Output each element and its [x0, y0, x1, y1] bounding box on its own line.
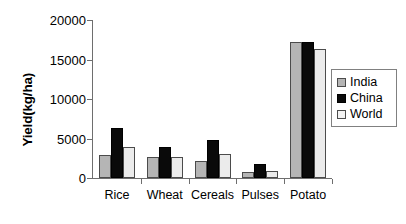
x-axis-tick-mark [141, 179, 142, 184]
bar-china-wheat [159, 147, 171, 178]
legend-item-india[interactable]: India [337, 74, 392, 90]
plot-area [93, 20, 332, 178]
y-axis-tick-labels: 20000150001000050000 [28, 0, 86, 224]
x-axis-tick-mark [332, 179, 333, 184]
x-axis-label-cereals: Cereals [189, 189, 237, 202]
y-axis-tick-mark [87, 139, 93, 140]
bar-world-wheat [171, 157, 183, 178]
y-axis-tick-label: 0 [28, 172, 86, 185]
bar-china-cereals [207, 140, 219, 178]
bar-group-potato [290, 20, 326, 178]
y-axis-tick-mark [87, 178, 93, 179]
x-axis-tick-mark [236, 179, 237, 184]
bar-group-pulses [242, 20, 278, 178]
bar-india-rice [99, 155, 111, 178]
x-axis-tick-mark [189, 179, 190, 184]
x-axis-label-wheat: Wheat [141, 189, 189, 202]
bar-india-wheat [147, 157, 159, 178]
bar-india-pulses [242, 172, 254, 178]
legend-label: India [350, 76, 377, 89]
bar-chart: Yield(kg/ha) 20000150001000050000 IndiaC… [0, 0, 406, 224]
legend-swatch-world-icon [337, 110, 346, 119]
bar-world-rice [123, 147, 135, 178]
bar-india-potato [290, 42, 302, 178]
bar-china-potato [302, 42, 314, 178]
y-axis-tick-label: 5000 [28, 133, 86, 146]
legend-label: China [350, 92, 383, 105]
x-axis-label-pulses: Pulses [236, 189, 284, 202]
y-axis-tick-label: 15000 [28, 54, 86, 67]
y-axis-tick-mark [87, 60, 93, 61]
x-axis-label-potato: Potato [284, 189, 332, 202]
legend-item-world[interactable]: World [337, 106, 392, 122]
y-axis-tick-label: 20000 [28, 14, 86, 27]
legend-swatch-india-icon [337, 78, 346, 87]
y-axis-tick-mark [87, 99, 93, 100]
legend-label: World [350, 108, 382, 121]
bar-group-cereals [195, 20, 231, 178]
bar-world-pulses [266, 171, 278, 178]
bar-world-cereals [219, 154, 231, 178]
bar-group-wheat [147, 20, 183, 178]
bar-world-potato [314, 49, 326, 178]
x-axis-label-rice: Rice [93, 189, 141, 202]
bar-group-rice [99, 20, 135, 178]
y-axis-tick-mark [87, 20, 93, 21]
bar-china-rice [111, 128, 123, 178]
bar-china-pulses [254, 164, 266, 178]
x-axis-line [92, 178, 332, 179]
x-axis-tick-mark [284, 179, 285, 184]
y-axis-tick-label: 10000 [28, 93, 86, 106]
legend-swatch-china-icon [337, 94, 346, 103]
chart-legend: IndiaChinaWorld [331, 69, 397, 127]
legend-item-china[interactable]: China [337, 90, 392, 106]
bar-india-cereals [195, 161, 207, 178]
